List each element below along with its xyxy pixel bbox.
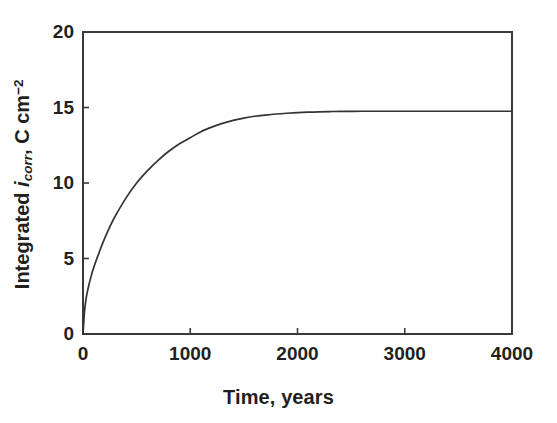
y-tick-label: 5	[63, 248, 74, 270]
y-tick-label: 15	[53, 97, 74, 119]
y-tick-label: 10	[53, 172, 74, 194]
y-axis-label-exponent: −2	[11, 79, 26, 95]
plot-frame	[83, 32, 512, 334]
axes-frame	[83, 32, 512, 334]
y-axis-label-suffix: , C cm	[11, 95, 33, 155]
y-axis-label-container: Integrated icorr, C cm−2	[0, 0, 46, 368]
x-tick-label: 0	[78, 343, 89, 365]
y-axis-label: Integrated icorr, C cm−2	[11, 79, 36, 289]
x-tick-label: 1000	[169, 343, 211, 365]
x-axis-label: Time, years	[0, 386, 557, 409]
x-tick-label: 3000	[384, 343, 426, 365]
y-axis-label-subscript: corr	[20, 155, 35, 181]
x-tick-label: 2000	[276, 343, 318, 365]
y-axis-label-symbol: i	[11, 181, 33, 187]
x-tick-label: 4000	[491, 343, 533, 365]
y-axis-label-prefix: Integrated	[11, 187, 33, 289]
y-tick-label: 0	[63, 323, 74, 345]
chart-figure: Integrated icorr, C cm−2 Time, years 010…	[0, 0, 557, 423]
data-series-line	[83, 111, 512, 334]
y-tick-label: 20	[53, 21, 74, 43]
